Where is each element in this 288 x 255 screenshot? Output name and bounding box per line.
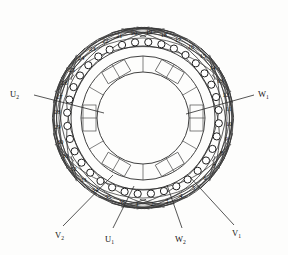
slot-number-label: 10: [226, 120, 232, 127]
slot-circle: [145, 39, 152, 46]
slot-number-label: 36: [119, 198, 125, 205]
slot-number-label: 12: [223, 91, 229, 98]
slot-number-label: 9: [225, 135, 228, 142]
slot-circle: [66, 135, 73, 142]
slot-circle: [87, 169, 94, 176]
stator-tooth-line: [183, 87, 197, 95]
stator-tooth-line: [166, 158, 174, 172]
stator-tooth-line: [112, 64, 120, 78]
terminal-w1-letter: W: [258, 89, 266, 99]
slot-circle: [78, 159, 85, 166]
slot-number-label: 1: [135, 200, 138, 207]
slot-circle: [85, 62, 92, 69]
slot-circle: [182, 51, 189, 58]
slot-circle: [202, 157, 209, 164]
terminal-w2: W2: [175, 234, 186, 245]
slot-number-label: 6: [203, 174, 206, 181]
terminal-v1: V1: [232, 228, 241, 239]
slot-number-label: 31: [63, 152, 69, 159]
slot-circle: [64, 109, 71, 116]
stator-tooth-line: [183, 141, 197, 149]
terminal-v2: V2: [55, 230, 64, 241]
slot-circle: [158, 41, 165, 48]
slot-number-label: 8: [220, 149, 223, 156]
slot-circle: [131, 39, 138, 46]
slot-number-label: 16: [188, 43, 194, 50]
slot-circle: [134, 190, 141, 197]
winding-diagram-svg: 1234567891011121314151617181920212223242…: [0, 0, 288, 255]
slot-number-label: 2: [150, 200, 153, 207]
terminal-w1-sub: 1: [266, 94, 269, 100]
slot-number-label: 24: [78, 54, 84, 61]
slot-circle: [213, 133, 220, 140]
slot-circle: [160, 187, 167, 194]
slot-circle: [170, 45, 177, 52]
slot-circle: [173, 183, 180, 190]
slot-number-label: 13: [217, 77, 223, 84]
terminal-w2-sub: 2: [183, 239, 186, 245]
slot-number-label: 21: [116, 32, 122, 39]
slot-circle: [76, 72, 83, 79]
slot-circle: [106, 46, 113, 53]
slot-number-label: 35: [105, 193, 111, 200]
slot-circle: [209, 145, 216, 152]
slot-circle: [108, 184, 115, 191]
terminal-v2-sub: 2: [61, 235, 64, 241]
slot-number-label: 20: [131, 29, 137, 36]
slot-number-label: 7: [213, 162, 216, 169]
terminal-labels: U2 W1 V2 U1 W2 V1: [10, 89, 269, 245]
stator-tooth-line: [166, 64, 174, 78]
slot-circle: [212, 93, 219, 100]
terminal-u2: U2: [10, 89, 19, 100]
stator-slot-detail: [81, 56, 205, 180]
slot-circle: [121, 188, 128, 195]
terminal-u2-sub: 2: [16, 94, 19, 100]
slot-circle: [147, 190, 154, 197]
slot-number-label: 23: [89, 45, 95, 52]
slot-circle: [208, 81, 215, 88]
stator-tooth-line: [89, 141, 103, 149]
slot-circle: [95, 53, 102, 60]
slot-circle: [215, 106, 222, 113]
stator-tooth-line: [89, 87, 103, 95]
slot-number-label: 15: [200, 52, 206, 59]
slot-circle: [70, 83, 77, 90]
terminal-w2-letter: W: [175, 234, 183, 244]
stator-tooth-line: [112, 158, 120, 172]
terminal-u1-sub: 1: [111, 239, 114, 245]
slot-circle: [64, 122, 71, 129]
terminal-u1: U1: [105, 234, 114, 245]
slot-number-label: 17: [175, 36, 181, 43]
slot-circle: [97, 177, 104, 184]
slot-number-label: 4: [179, 192, 182, 199]
slot-circle: [201, 70, 208, 77]
slot-circle: [71, 148, 78, 155]
slot-number-label: 14: [209, 64, 215, 71]
slot-number-label: 28: [54, 108, 60, 115]
slot-number-label: 22: [102, 37, 108, 44]
slot-number-label: 30: [57, 138, 63, 145]
slot-number-label: 32: [70, 165, 76, 172]
slot-number-label: 5: [192, 184, 195, 191]
slot-number-label: 3: [165, 197, 168, 204]
slot-number-label: 19: [146, 28, 152, 35]
slot-number-label: 11: [226, 105, 232, 112]
slot-number-label: 26: [61, 79, 67, 86]
slot-circle: [192, 60, 199, 67]
coil-arc-group: [23, 0, 264, 238]
slot-number-label: 27: [56, 93, 62, 100]
slot-circle: [118, 41, 125, 48]
slot-circle: [215, 120, 222, 127]
winding-diagram-canvas: 1234567891011121314151617181920212223242…: [0, 0, 288, 255]
slot-number-label: 18: [161, 31, 167, 38]
slot-circle: [66, 96, 73, 103]
terminal-v1-sub: 1: [238, 233, 241, 239]
slot-number-label: 29: [54, 123, 60, 130]
slot-number-label: 25: [69, 66, 75, 73]
lead-v1: [189, 176, 234, 225]
terminal-w1: W1: [258, 89, 269, 100]
slot-circle: [194, 167, 201, 174]
slot-number-label: 33: [80, 176, 86, 183]
